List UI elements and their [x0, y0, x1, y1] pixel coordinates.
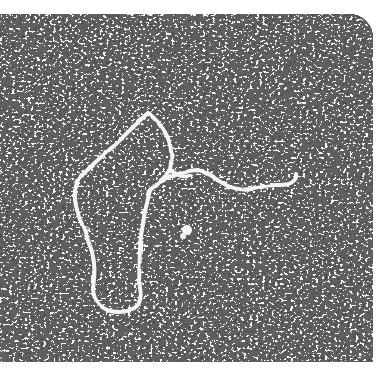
bright-particle-small [180, 233, 186, 239]
electron-micrograph [0, 14, 373, 362]
micrograph-canvas [0, 14, 373, 362]
grain-texture [0, 14, 373, 362]
